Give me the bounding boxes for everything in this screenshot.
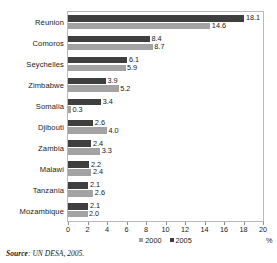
bar-2005: 2.1 <box>68 203 88 210</box>
category-label: Somalia <box>36 102 64 111</box>
bar-2005: 8.4 <box>68 36 150 43</box>
source-text: UN DESA, 2005. <box>30 249 84 258</box>
legend-swatch-icon <box>139 238 143 242</box>
chart-figure: Réunion18.114.6Comoros8.48.7Seychelles6.… <box>0 0 277 263</box>
bar-2000: 5.2 <box>68 85 119 92</box>
category-label: Mozambique <box>20 206 64 215</box>
bar-group: Mozambique2.12.0 <box>68 200 263 221</box>
x-axis-tick-label: 14 <box>200 225 208 234</box>
bar-group: Comoros8.48.7 <box>68 33 263 54</box>
legend-item: 2005 <box>170 237 192 244</box>
bar-group: Malawi2.22.4 <box>68 158 263 179</box>
x-axis-tick-label: 0 <box>66 225 70 234</box>
source-label: Source <box>6 249 28 258</box>
bar-value-label: 4.0 <box>109 127 119 134</box>
bars-container: Réunion18.114.6Comoros8.48.7Seychelles6.… <box>68 12 263 221</box>
category-label: Réunion <box>35 18 64 27</box>
bar-group: Zambia2.43.3 <box>68 137 263 158</box>
bar-2000: 5.9 <box>68 65 126 72</box>
x-axis-tick-label: 8 <box>144 225 148 234</box>
x-axis-tick-label: 12 <box>181 225 189 234</box>
bar-2005: 2.1 <box>68 182 88 189</box>
bar-group: Tanzania2.12.6 <box>68 179 263 200</box>
bar-value-label: 3.9 <box>108 77 118 84</box>
category-label: Zambia <box>38 143 64 152</box>
x-axis-tick-label: 18 <box>239 225 247 234</box>
bar-value-label: 5.9 <box>127 64 137 71</box>
bar-2000: 2.6 <box>68 190 93 197</box>
legend-item: 2000 <box>139 237 161 244</box>
x-axis-tick-label: 2 <box>85 225 89 234</box>
bar-group: Seychelles6.15.9 <box>68 54 263 75</box>
clipped-title-remnant <box>110 0 170 1</box>
bar-2000: 4.0 <box>68 127 107 134</box>
bar-2005: 6.1 <box>68 57 127 64</box>
x-axis: 02468101214161820 <box>67 222 264 236</box>
bar-2005: 3.9 <box>68 78 106 85</box>
bar-group: Somalia3.40.3 <box>68 96 263 117</box>
bar-value-label: 14.6 <box>212 22 226 29</box>
source-note: Source: UN DESA, 2005. <box>6 249 84 258</box>
bar-value-label: 5.2 <box>120 85 130 92</box>
bar-2000: 2.0 <box>68 211 88 218</box>
category-label: Comoros <box>32 39 64 48</box>
bar-2005: 2.4 <box>68 140 91 147</box>
x-axis-unit-label: % <box>266 236 273 245</box>
x-axis-tick-label: 20 <box>259 225 267 234</box>
chart-legend: 20002005 <box>67 235 264 246</box>
bar-group: Djibouti2.64.0 <box>68 117 263 138</box>
bar-value-label: 3.3 <box>102 148 112 155</box>
bar-2005: 2.6 <box>68 120 93 127</box>
category-label: Seychelles <box>26 60 64 69</box>
legend-swatch-icon <box>170 238 174 242</box>
category-label: Zimbabwe <box>28 81 64 90</box>
bar-value-label: 2.6 <box>95 119 105 126</box>
bar-value-label: 2.4 <box>93 169 103 176</box>
bar-2000: 3.3 <box>68 148 100 155</box>
bar-2000: 8.7 <box>68 44 153 51</box>
bar-value-label: 2.0 <box>89 211 99 218</box>
x-axis-tick-label: 10 <box>161 225 169 234</box>
bar-value-label: 0.3 <box>72 106 82 113</box>
bar-group: Zimbabwe3.95.2 <box>68 75 263 96</box>
bar-2000: 2.4 <box>68 169 91 176</box>
legend-label: 2000 <box>145 237 161 244</box>
category-label: Malawi <box>40 164 64 173</box>
x-axis-tick-label: 4 <box>105 225 109 234</box>
bar-2005: 2.2 <box>68 161 89 168</box>
plot-area: Réunion18.114.6Comoros8.48.7Seychelles6.… <box>67 11 264 222</box>
bar-2000: 0.3 <box>68 106 71 113</box>
bar-value-label: 2.6 <box>95 190 105 197</box>
bar-group: Réunion18.114.6 <box>68 12 263 33</box>
legend-label: 2005 <box>176 237 192 244</box>
category-label: Djibouti <box>38 122 64 131</box>
bar-2000: 14.6 <box>68 23 210 30</box>
bar-value-label: 8.7 <box>154 43 164 50</box>
bar-value-label: 18.1 <box>246 15 260 22</box>
category-label: Tanzania <box>33 185 64 194</box>
x-axis-tick-label: 6 <box>124 225 128 234</box>
bar-value-label: 3.4 <box>103 98 113 105</box>
x-axis-tick-label: 16 <box>220 225 228 234</box>
